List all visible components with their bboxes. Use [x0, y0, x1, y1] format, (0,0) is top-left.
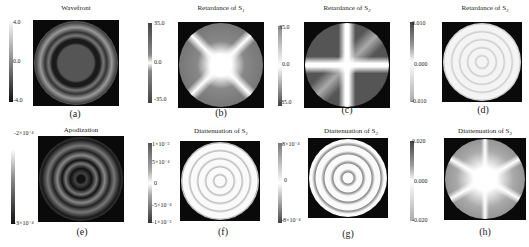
colorbar-mid: 0.000: [414, 178, 428, 184]
panel-caption: (a): [65, 108, 85, 119]
panel-caption: (d): [473, 104, 493, 115]
colorbar-max: 35.0: [154, 20, 165, 26]
panel-title: Apodization: [38, 126, 124, 134]
colorbar-upper: 5×10⁻⁴: [152, 158, 170, 165]
diattenuation-s3-map: [444, 138, 526, 220]
colorbar: [148, 143, 152, 223]
colorbar-mid: 0.0: [13, 58, 21, 64]
panel-diattenuation-s3: Diattenuation of S3 0.020 0.000 -0.020 (…: [392, 123, 524, 246]
diattenuation-s2-map: [308, 138, 388, 218]
retardance-s1-map: [178, 22, 264, 108]
colorbar: [278, 143, 282, 223]
panel-title: Diattenuation of S2: [308, 127, 394, 136]
panel-title: Retardance of S3: [442, 4, 528, 13]
retardance-s2-map: [304, 22, 390, 108]
panel-title: Wavefront: [33, 4, 119, 12]
panel-retardance-s1: Retardance of S1 35.0 0.0 -35.0 (b): [132, 0, 264, 123]
panel-title: Retardance of S2: [304, 4, 390, 13]
apodization-map: [38, 136, 124, 222]
panel-caption: (h): [475, 226, 495, 237]
colorbar-mid: 0.0: [282, 61, 290, 67]
colorbar-min: -3×10⁻⁴: [14, 219, 34, 226]
panel-diattenuation-s2: Diattenuation of S2 8×10⁻⁴ 0 -8×10⁻⁴ (g): [262, 123, 394, 246]
panel-caption: (b): [211, 107, 231, 118]
colorbar-max: 0.010: [412, 20, 426, 26]
colorbar-max: 0.020: [412, 138, 426, 144]
panel-retardance-s2: Retardance of S2 35.0 0.0 -35.0 (c): [262, 0, 394, 123]
panel-caption: (f): [213, 226, 233, 237]
colorbar-max: 4.0: [13, 19, 21, 25]
colorbar-mid: 0: [154, 180, 157, 186]
panel-apodization: Apodization -2×10⁻⁴ -3×10⁻⁴ (e): [0, 123, 132, 246]
colorbar-mid: 0.0: [154, 59, 162, 65]
colorbar-lower: -5×10⁻⁴: [152, 201, 172, 208]
panel-title: Diattenuation of S3: [442, 127, 528, 136]
colorbar-min: -8×10⁻⁴: [281, 216, 301, 223]
panel-caption: (e): [72, 226, 92, 237]
colorbar: [11, 149, 15, 224]
colorbar-mid: 0: [284, 177, 287, 183]
colorbar-max: 35.0: [279, 24, 290, 30]
colorbar-min: -35.0: [279, 99, 292, 105]
colorbar-max: 8×10⁻⁴: [282, 140, 300, 147]
diattenuation-s1-map: [180, 141, 260, 221]
panel-title: Retardance of S1: [178, 4, 264, 13]
colorbar-min: -0.020: [412, 217, 428, 223]
colorbar-max: 1×10⁻³: [152, 140, 169, 147]
panel-caption: (g): [338, 228, 358, 239]
panel-wavefront: Wavefront 4.0 0.0 -4.0 (a): [0, 0, 132, 123]
wavefront-map: [33, 20, 119, 106]
colorbar-min: -1×10⁻³: [152, 218, 171, 225]
colorbar-min: -0.010: [411, 98, 427, 104]
colorbar-min: -35.0: [154, 96, 167, 102]
retardance-s3-map: [442, 22, 522, 102]
colorbar-max: -2×10⁻⁴: [14, 129, 34, 136]
colorbar-min: -4.0: [13, 97, 23, 103]
panel-caption: (c): [337, 104, 357, 115]
colorbar-mid: 0.000: [414, 61, 428, 67]
colorbar: [148, 23, 152, 103]
panel-title: Diattenuation of S1: [178, 127, 264, 136]
panel-retardance-s3: Retardance of S3 0.010 0.000 -0.010 (d): [392, 0, 524, 123]
panel-diattenuation-s1: Diattenuation of S1 1×10⁻³ 5×10⁻⁴ 0 -5×1…: [132, 123, 264, 246]
